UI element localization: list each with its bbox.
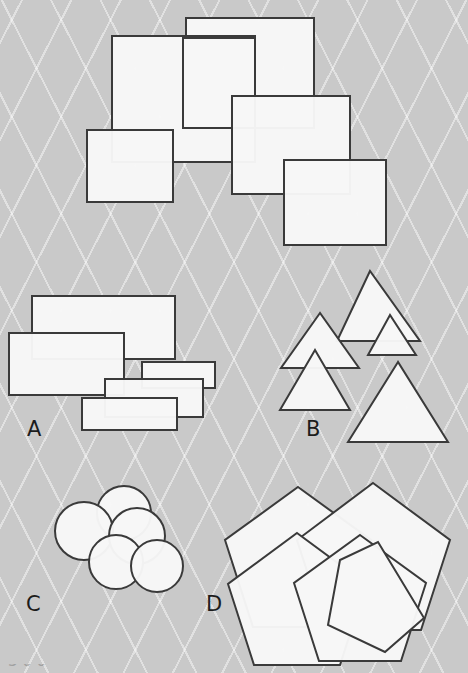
panel-label-A: A xyxy=(27,417,42,441)
shapes-layer xyxy=(9,18,450,665)
circ-c-5 xyxy=(131,540,183,592)
figure-canvas: ABCD 3 0 0 xyxy=(0,0,468,673)
panel-label-B: B xyxy=(306,417,320,441)
shape-overlap-figure: ABCD xyxy=(0,0,468,673)
partial-caption: 3 0 0 xyxy=(8,664,46,670)
rect-a-5 xyxy=(82,398,177,430)
tri-b-1 xyxy=(337,271,420,341)
rect-left-small xyxy=(87,130,173,202)
rect-bottom-right xyxy=(284,160,386,245)
caption-clip: 3 0 0 xyxy=(0,664,468,673)
panel-label-C: C xyxy=(26,592,41,616)
tri-b-5 xyxy=(348,362,448,442)
panel-label-D: D xyxy=(206,592,222,616)
